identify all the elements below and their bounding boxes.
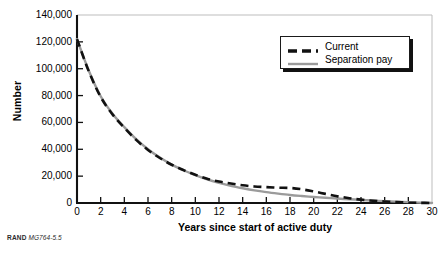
legend-item-separation-pay: Separation pay [281,53,409,66]
x-axis-title: Years since start of active duty [77,221,433,233]
chart-legend: Current Separation pay [280,36,410,69]
legend-item-current: Current [281,40,409,53]
credit-figure-id: MG764-5.5 [28,234,61,241]
figure-chart: Number 020,00040,00060,00080,000100,0001… [0,0,447,259]
legend-swatch-current [288,42,318,52]
legend-label-current: Current [325,42,358,52]
x-axis-tick-label: 30 [417,207,447,217]
legend-swatch-separation-pay [288,55,318,65]
figure-credit: RAND MG764-5.5 [7,234,62,242]
legend-label-separation-pay: Separation pay [325,55,392,65]
credit-organization: RAND [7,234,27,241]
